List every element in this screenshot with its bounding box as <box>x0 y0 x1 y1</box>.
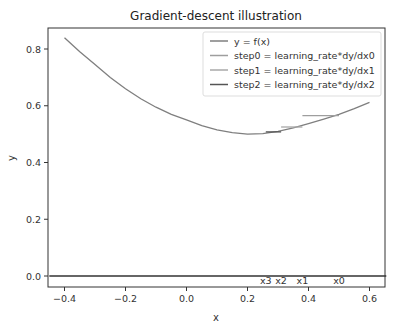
x-tick-label: 0.2 <box>240 293 255 304</box>
annotation-x0: x0 <box>333 275 345 286</box>
chart: x3x2x1x0 −0.4−0.20.00.20.40.60.00.20.40.… <box>0 0 400 330</box>
x-tick-label: 0.0 <box>179 293 194 304</box>
y-tick-label: 0.4 <box>26 157 41 168</box>
y-tick-label: 0.0 <box>26 271 41 282</box>
legend-label-1: step0 = learning_rate*dy/dx0 <box>234 50 375 61</box>
x-tick-label: 0.4 <box>301 293 316 304</box>
y-tick-label: 0.2 <box>26 214 41 225</box>
annotation-x3: x3 <box>260 275 272 286</box>
y-tick-label: 0.6 <box>26 100 41 111</box>
x-tick-label: 0.6 <box>362 293 377 304</box>
legend-label-3: step2 = learning_rate*dy/dx2 <box>234 79 375 90</box>
y-axis-label: y <box>6 155 17 161</box>
chart-title: Gradient-descent illustration <box>130 9 302 23</box>
legend: y = f(x)step0 = learning_rate*dy/dx0step… <box>203 32 381 96</box>
x-tick-label: −0.4 <box>53 293 76 304</box>
y-tick-label: 0.8 <box>26 44 41 55</box>
legend-label-2: step1 = learning_rate*dy/dx1 <box>234 65 375 76</box>
x-axis-label: x <box>213 312 219 323</box>
legend-label-0: y = f(x) <box>234 36 270 47</box>
x-tick-label: −0.2 <box>114 293 137 304</box>
annotation-x2: x2 <box>275 275 287 286</box>
annotation-x1: x1 <box>297 275 309 286</box>
